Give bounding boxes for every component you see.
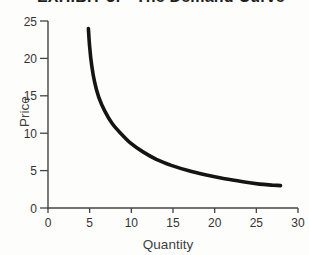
exhibit-figure: EXHIBIT 3: The Demand Curve 051015202505… [0,0,309,255]
y-tick-label: 10 [24,127,38,141]
demand-curve-chart: 0510152025051015202530 [0,0,309,255]
y-tick-label: 0 [30,202,37,216]
x-tick-label: 15 [166,216,180,230]
x-tick-label: 10 [125,216,139,230]
x-tick-label: 30 [291,216,305,230]
demand-curve-line [88,29,280,186]
y-tick-label: 5 [30,164,37,178]
y-tick-label: 20 [24,52,38,66]
y-axis-label: Price [8,95,41,128]
x-tick-label: 0 [45,216,52,230]
x-tick-label: 5 [86,216,93,230]
y-tick-label: 25 [24,15,38,29]
x-tick-label: 20 [208,216,222,230]
x-axis-label: Quantity [48,237,288,252]
x-tick-label: 25 [250,216,264,230]
